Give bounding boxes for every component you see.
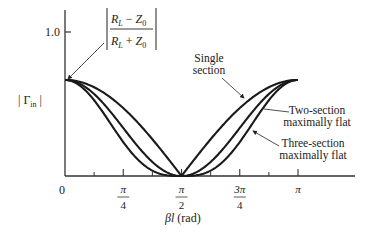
svg-text:maximally flat: maximally flat: [283, 116, 351, 129]
svg-text:| Γin |: | Γin |: [18, 93, 42, 109]
three-section-curve: [65, 80, 298, 176]
svg-text:RL − Z0: RL − Z0: [110, 12, 146, 28]
svg-text:π: π: [120, 183, 126, 195]
svg-text:Two-section: Two-section: [289, 104, 346, 116]
two-section-arrow: [264, 109, 289, 112]
x-tick-label-frac-2: π2: [176, 183, 188, 211]
single-section-arrow: [222, 78, 244, 98]
x-tick-label-frac-3: 3π4: [233, 183, 246, 211]
x-tick-label-pi: π: [295, 183, 301, 195]
svg-text:Three-section: Three-section: [281, 137, 344, 149]
x-axis-label: βl (rad): [164, 211, 201, 225]
svg-text:maximally flat: maximally flat: [279, 149, 347, 162]
gamma-formula-annotation: RL − Z0 RL + Z0: [68, 8, 156, 79]
three-section-arrow: [253, 131, 279, 146]
y-axis-label: | Γin |: [18, 93, 42, 109]
svg-text:π: π: [179, 183, 185, 195]
two-section-curve: [65, 80, 298, 176]
two-section-annotation: Two-section maximally flat: [264, 104, 351, 129]
three-section-annotation: Three-section maximally flat: [253, 131, 347, 162]
gamma-formula-arrow: [68, 43, 104, 79]
svg-text:section: section: [193, 64, 226, 76]
single-section-annotation: Single section: [193, 52, 244, 98]
single-section-curve: [65, 80, 298, 176]
y-tick-label: 1.0: [45, 25, 60, 39]
x-tick-label-0: 0: [59, 183, 65, 197]
reflection-coefficient-chart: 1.0 | Γin | 0 π4π23π4 π βl (rad) RL − Z0…: [0, 0, 372, 232]
svg-text:3π: 3π: [233, 183, 246, 195]
x-tick-label-frac-1: π4: [117, 183, 129, 211]
svg-text:RL + Z0: RL + Z0: [110, 34, 146, 50]
svg-text:4: 4: [121, 199, 127, 211]
svg-text:4: 4: [237, 199, 243, 211]
svg-text:2: 2: [179, 199, 185, 211]
